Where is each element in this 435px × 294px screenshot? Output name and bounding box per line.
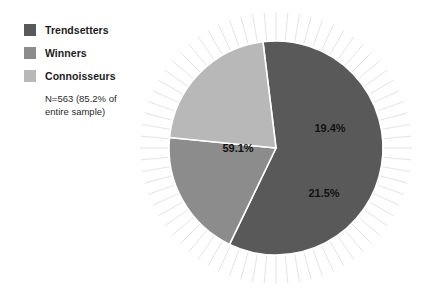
sunburst-ray (165, 70, 188, 86)
sunburst-ray (330, 30, 344, 54)
sunburst-ray (370, 80, 394, 94)
sunburst-ray (364, 210, 387, 226)
legend-item-trendsetters: Trendsetters (24, 24, 164, 36)
sunburst-ray (295, 254, 300, 282)
legend-label-connoisseurs: Connoisseurs (45, 70, 116, 82)
sample-size-note-line1: N=563 (85.2% of (45, 93, 164, 106)
sunburst-ray (352, 224, 372, 244)
sunburst-ray (364, 70, 387, 86)
sunburst-ray (198, 37, 214, 60)
sample-size-note: N=563 (85.2% of entire sample) (45, 93, 164, 119)
sunburst-ray (241, 252, 248, 279)
sunburst-ray (352, 52, 372, 72)
sunburst-ray (345, 231, 363, 252)
pie-slices (169, 41, 383, 255)
sunburst-ray (252, 14, 257, 42)
sunburst-ray (208, 30, 222, 54)
legend-swatch-trendsetters (24, 24, 36, 36)
sunburst-ray (180, 224, 200, 244)
sunburst-ray (264, 256, 266, 284)
sunburst-ray (330, 242, 344, 266)
sunburst-ray (304, 17, 311, 44)
sunburst-ray (229, 20, 239, 46)
slice-value-winners: 19.4% (314, 122, 345, 134)
legend-item-connoisseurs: Connoisseurs (24, 70, 164, 82)
sunburst-ray (338, 37, 354, 60)
sample-size-note-line2: entire sample) (45, 106, 164, 119)
sunburst-ray (359, 61, 380, 79)
sunburst-ray (313, 249, 323, 275)
sunburst-ray (304, 252, 311, 279)
sunburst-ray (145, 176, 172, 183)
sunburst-ray (219, 25, 231, 50)
sunburst-ray (252, 254, 257, 282)
sunburst-ray (172, 61, 193, 79)
sunburst-ray (219, 246, 231, 271)
slice-value-connoisseurs: 21.5% (308, 187, 339, 199)
sunburst-ray (377, 101, 403, 111)
sunburst-ray (377, 185, 403, 195)
sunburst-ray (380, 113, 407, 120)
sunburst-ray (285, 13, 287, 41)
sunburst-ray (295, 14, 300, 42)
sunburst-ray (322, 246, 334, 271)
sunburst-ray (338, 236, 354, 259)
sunburst-ray (384, 157, 412, 159)
legend-swatch-winners (24, 47, 36, 59)
sunburst-ray (345, 44, 363, 65)
sunburst-ray (313, 20, 323, 46)
sunburst-ray (374, 91, 399, 103)
sunburst-ray (165, 210, 188, 226)
pie-chart-figure: 59.1%19.4%21.5% Trendsetters Winners Con… (0, 0, 435, 294)
legend-label-trendsetters: Trendsetters (45, 24, 109, 36)
sunburst-ray (382, 167, 410, 172)
sunburst-ray (141, 157, 169, 159)
sunburst-ray (359, 217, 380, 235)
sunburst-ray (229, 249, 239, 275)
sunburst-ray (382, 124, 410, 129)
legend-label-winners: Winners (45, 47, 87, 59)
sunburst-ray (172, 217, 193, 235)
sunburst-ray (141, 136, 169, 138)
legend-swatch-connoisseurs (24, 70, 36, 82)
slice-value-trendsetters: 59.1% (222, 142, 253, 154)
sunburst-ray (198, 236, 214, 259)
sunburst-ray (285, 256, 287, 284)
sunburst-ray (189, 44, 207, 65)
sunburst-ray (158, 202, 182, 216)
legend-item-winners: Winners (24, 47, 164, 59)
sunburst-ray (153, 194, 178, 206)
sunburst-ray (189, 231, 207, 252)
legend: Trendsetters Winners Connoisseurs N=563 … (24, 24, 164, 119)
sunburst-ray (380, 176, 407, 183)
sunburst-ray (142, 124, 170, 129)
sunburst-ray (180, 52, 200, 72)
sunburst-ray (264, 13, 266, 41)
sunburst-ray (374, 194, 399, 206)
sunburst-ray (148, 185, 174, 195)
sunburst-ray (241, 17, 248, 44)
sunburst-ray (370, 202, 394, 216)
sunburst-ray (208, 242, 222, 266)
sunburst-ray (322, 25, 334, 50)
sunburst-ray (384, 136, 412, 138)
sunburst-ray (142, 167, 170, 172)
